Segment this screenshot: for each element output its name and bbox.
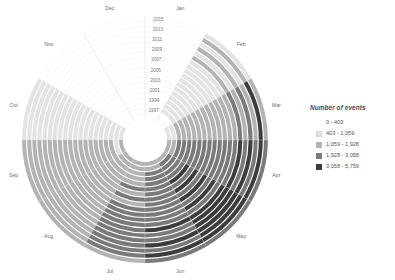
legend-item[interactable]: 1,928 - 3,058 — [316, 150, 392, 161]
year-tick-label: 2001 — [150, 88, 161, 93]
year-tick-label: 2003 — [150, 78, 161, 83]
year-tick-label: 2009 — [152, 47, 163, 52]
year-tick-label: 2011 — [152, 37, 162, 42]
figure-root: 2015201320112009200720052003200119991997… — [0, 0, 395, 280]
legend-label: 403 - 1,059 — [326, 131, 354, 137]
month-axis-label: Nov — [44, 41, 54, 47]
legend-swatch — [316, 131, 322, 137]
legend-label: 1,928 - 3,058 — [326, 153, 359, 159]
legend-item[interactable]: 403 - 1,059 — [316, 128, 392, 139]
month-axis-label: Sep — [9, 172, 18, 178]
month-axis-label: Jun — [176, 268, 184, 274]
legend-item[interactable]: 3,058 - 5,759 — [316, 161, 392, 172]
year-tick-label: 2015 — [153, 17, 164, 22]
year-tick-label: 1999 — [149, 98, 160, 103]
month-axis-label: Aug — [44, 233, 53, 239]
polar-heatmap-chart: 2015201320112009200720052003200119991997… — [0, 0, 290, 280]
legend-entries: 0 - 403403 - 1,0591,059 - 1,9281,928 - 3… — [308, 117, 392, 172]
legend-swatch — [316, 164, 322, 170]
legend-swatch — [316, 153, 322, 159]
legend-label: 0 - 403 — [326, 120, 343, 126]
legend-swatch — [316, 120, 322, 126]
month-axis-label: Jul — [106, 268, 113, 274]
legend: Number of events 0 - 403403 - 1,0591,059… — [308, 104, 392, 172]
month-axis-label: Jan — [176, 5, 184, 11]
year-tick-label: 2013 — [153, 27, 164, 32]
legend-item[interactable]: 1,059 - 1,928 — [316, 139, 392, 150]
month-axis-label: Oct — [10, 102, 19, 108]
month-axis-label: Feb — [237, 41, 246, 47]
month-axis-label: Mar — [272, 102, 281, 108]
month-axis-label: May — [236, 233, 246, 239]
legend-title: Number of events — [310, 104, 392, 111]
center-hole — [123, 118, 167, 162]
month-axis-label: Apr — [272, 172, 280, 178]
inner-hole — [123, 118, 167, 162]
legend-label: 3,058 - 5,759 — [326, 164, 359, 170]
year-tick-label: 2007 — [151, 57, 162, 62]
year-tick-label: 2005 — [151, 68, 162, 73]
legend-item[interactable]: 0 - 403 — [316, 117, 392, 128]
legend-label: 1,059 - 1,928 — [326, 142, 359, 148]
polar-chart-svg: 2015201320112009200720052003200119991997… — [0, 0, 290, 280]
year-tick-label: 1997 — [149, 108, 160, 113]
legend-swatch — [316, 142, 322, 148]
month-axis-label: Dec — [105, 5, 115, 11]
